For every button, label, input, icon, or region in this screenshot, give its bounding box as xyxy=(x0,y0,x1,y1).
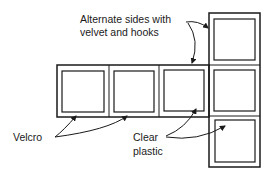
window-6 xyxy=(215,120,255,162)
label-alternate-line2: velvet and hooks xyxy=(80,26,159,38)
label-alternate-line1: Alternate sides with xyxy=(80,13,171,25)
window-4 xyxy=(214,19,255,60)
label-velcro: Velcro xyxy=(13,131,42,143)
window-1 xyxy=(62,71,104,112)
leader-arrows xyxy=(55,22,225,139)
horizontal-row xyxy=(57,65,209,117)
arrow-clear-1 xyxy=(166,109,196,136)
window-3 xyxy=(164,70,204,111)
arrow-alternate-to-row xyxy=(188,23,195,63)
pocket-net-diagram: Alternate sides with velvet and hooks Ve… xyxy=(0,0,276,177)
vertical-column xyxy=(209,13,260,167)
window-5 xyxy=(214,70,255,111)
label-clear-line1: Clear xyxy=(133,131,159,143)
label-clear-line2: plastic xyxy=(133,145,163,157)
window-2 xyxy=(114,71,154,112)
